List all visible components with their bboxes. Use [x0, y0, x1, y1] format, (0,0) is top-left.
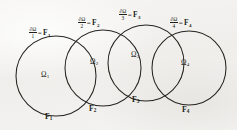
boundary-equation-1: ∂Ω 1 =F1: [29, 27, 51, 39]
domain-circle-2: [65, 30, 141, 106]
domain-label-3: Ω3: [131, 51, 139, 58]
domain-circle-1: [16, 36, 96, 116]
boundary-name-2: F2: [92, 19, 99, 26]
boundary-name-1: F1: [43, 29, 50, 36]
arc-label-2: F2: [89, 105, 96, 113]
boundary-name-4: F4: [184, 19, 191, 26]
domain-label-4: Ω4: [181, 59, 189, 66]
arc-label-1: F1: [45, 113, 52, 121]
arc-label-4: F4: [182, 106, 189, 114]
figure-canvas: ∂Ω 1 =F1 ∂Ω 2 =F2 ∂Ω 3 =F3 ∂Ω 4 =F4 Ω1 Ω…: [0, 0, 237, 130]
boundary-equation-4: ∂Ω 4 =F4: [170, 17, 192, 29]
partial-omega-fraction-3: ∂Ω 3: [119, 9, 127, 21]
domain-label-2: Ω2: [90, 58, 98, 65]
domain-label-1: Ω1: [41, 71, 49, 78]
arc-label-3: F3: [132, 96, 139, 104]
boundary-equation-3: ∂Ω 3 =F3: [119, 9, 141, 21]
partial-omega-fraction-2: ∂Ω 2: [78, 17, 86, 29]
boundary-name-3: F3: [133, 11, 140, 18]
domain-circle-4: [152, 31, 226, 105]
domain-circle-3: [108, 25, 184, 101]
partial-omega-fraction-1: ∂Ω 1: [29, 27, 37, 39]
partial-omega-fraction-4: ∂Ω 4: [170, 17, 178, 29]
boundary-equation-2: ∂Ω 2 =F2: [78, 17, 100, 29]
